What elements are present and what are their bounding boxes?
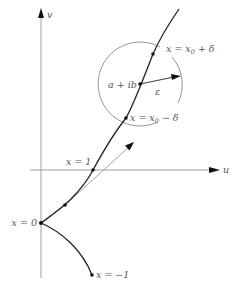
label-x0-minus-delta: x = x0 − δ xyxy=(130,112,179,125)
u-axis: u xyxy=(30,164,229,175)
v-axis: v xyxy=(38,8,53,278)
curve-points xyxy=(39,52,155,277)
curve-lower-branch xyxy=(41,223,92,275)
point-a-plus-ib xyxy=(138,82,142,86)
point-x-one xyxy=(91,168,95,172)
label-x0-plus-delta: x = x0 + δ xyxy=(166,43,215,56)
v-axis-label: v xyxy=(47,9,53,20)
u-axis-arrow-icon xyxy=(209,167,220,173)
radius-vector xyxy=(140,74,181,84)
tangent-vector xyxy=(65,142,134,205)
point-x-minus-one xyxy=(90,273,94,277)
label-epsilon: ε xyxy=(155,86,160,97)
u-axis-label: u xyxy=(223,164,229,175)
label-a-plus-ib: a + ib xyxy=(108,79,137,90)
point-origin xyxy=(39,221,43,225)
label-x-minus-one: x = −1 xyxy=(96,269,129,280)
label-x-one: x = 1 xyxy=(66,156,91,167)
point-x0-minus-delta xyxy=(124,116,128,120)
v-axis-arrow-icon xyxy=(38,8,44,18)
label-x-zero: x = 0 xyxy=(12,217,37,228)
point-tangent-base xyxy=(63,203,67,207)
point-x0-plus-delta xyxy=(151,52,155,56)
complex-curve-diagram: v u x = x0 + δ a + ib ε xyxy=(0,0,230,287)
radius-arrow-icon xyxy=(171,74,181,80)
